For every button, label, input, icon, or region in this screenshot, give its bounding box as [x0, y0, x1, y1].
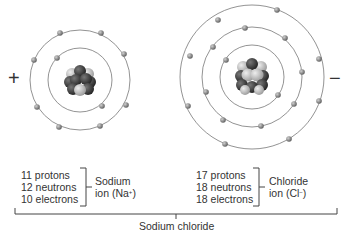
chloride-bracket: [253, 168, 265, 206]
sodium-ion-charge: +: [129, 189, 133, 195]
chloride-atom: [180, 5, 324, 149]
positive-charge-sign: +: [8, 68, 20, 88]
chloride-ion-charge: −: [299, 189, 303, 195]
negative-charge-sign: −: [329, 68, 341, 88]
sodium-ion-suffix: ): [132, 187, 136, 199]
chloride-ion-label-1: Chloride: [269, 175, 308, 187]
sodium-protons: 11 protons: [21, 169, 70, 181]
chloride-nucleus: [235, 58, 269, 95]
chloride-protons: 17 protons: [196, 169, 246, 181]
sodium-chloride-bracket: [15, 208, 337, 219]
sodium-ion-prefix: ion (Na: [95, 187, 129, 199]
chloride-ion-label-2: ion (Cl−): [269, 187, 306, 199]
sodium-electrons-count: 10 electrons: [21, 193, 78, 205]
chloride-neutrons: 18 neutrons: [196, 181, 251, 193]
chloride-ion-suffix: ): [303, 187, 307, 199]
sodium-neutrons: 12 neutrons: [21, 181, 76, 193]
chloride-ion-prefix: ion (Cl: [269, 187, 299, 199]
sodium-ion-label-1: Sodium: [95, 175, 131, 187]
sodium-bracket: [80, 168, 92, 206]
sodium-nucleus: [64, 65, 96, 96]
chloride-electrons-count: 18 electrons: [196, 193, 253, 205]
compound-label: Sodium chloride: [139, 220, 214, 232]
sodium-ion-label-2: ion (Na+): [95, 187, 136, 199]
sodium-atom: [30, 30, 130, 130]
